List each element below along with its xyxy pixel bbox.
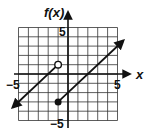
y-axis-label: f(x) [44, 5, 64, 20]
x-axis-label: x [135, 67, 144, 82]
y-tick-min: −5 [50, 117, 64, 129]
open-circle-point [55, 61, 62, 68]
x-tick-max: 5 [114, 78, 121, 92]
closed-dot-point [55, 98, 62, 105]
x-tick-min: −5 [6, 78, 20, 92]
y-tick-max: 5 [59, 25, 66, 39]
piecewise-function-graph: f(x) x −5 5 5 −5 [0, 0, 154, 129]
